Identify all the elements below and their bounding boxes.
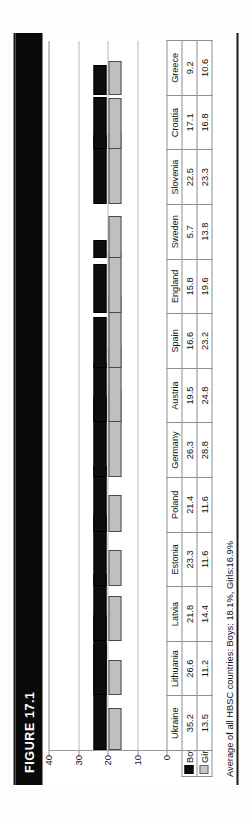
chart-area: 010203040 UkraineLithuaniaLatviaEstoniaP… [49,41,199,777]
y-axis-tick-mark [108,751,109,755]
table-row: Boys35.226.621.823.321.426.319.516.615.8… [182,41,197,777]
table-cell-value: 16.6 [182,314,197,369]
table-cell-value: 14.4 [197,587,212,642]
legend-label: Girls [200,751,210,764]
bar-boys [94,317,107,368]
bar-group [49,204,167,259]
legend-item-girls: Girls [197,751,212,777]
bar-girls [109,660,122,695]
bar-girls [109,550,122,586]
table-cell-value: 10.6 [197,41,212,96]
bar-group [49,586,167,641]
bar-girls [109,708,122,750]
table-header-country: Latvia [167,587,182,642]
table-cell-value: 15.8 [182,259,197,314]
bar-group [49,149,167,204]
bar-girls [109,216,122,259]
bar-group [49,40,167,95]
table-header-country: Germany [167,423,182,478]
figure-page: FIGURE 17.1 010203040 UkraineLithuaniaLa… [0,0,252,818]
table-header-country: England [167,259,182,314]
bar-group [49,313,167,368]
bar-boys [94,66,107,95]
bar-group [49,258,167,313]
bar-girls [109,596,122,640]
table-cell-value: 11.2 [197,641,212,696]
table-corner-cell [167,751,182,777]
table-row: Girls13.511.214.411.611.628.824.823.219.… [197,41,212,777]
data-table: UkraineLithuaniaLatviaEstoniaPolandGerma… [167,40,213,777]
table-cell-value: 9.2 [182,41,197,96]
table-header-country: Sweden [167,204,182,259]
table-header-country: Estonia [167,532,182,587]
table-cell-value: 13.8 [197,204,212,259]
y-axis-tick-mark [137,751,138,755]
table-cell-value: 26.6 [182,641,197,696]
figure-number-label: FIGURE 17.1 [22,691,36,773]
y-axis-tick-label: 20 [102,755,113,766]
figure-body: 010203040 UkraineLithuaniaLatviaEstoniaP… [43,33,239,785]
bar-group [49,477,167,532]
table-cell-value: 13.5 [197,696,212,751]
table-cell-value: 5.7 [182,204,197,259]
table-header-country: Spain [167,314,182,369]
bar-boys [94,264,107,313]
bar-group [49,532,167,587]
chart-footnote: Average of all HBSC countries: Boys: 18.… [225,41,235,777]
y-axis-tick-mark [49,751,50,755]
legend-label: Boys [185,751,195,764]
bar-group [49,695,167,750]
bar-group [49,368,167,423]
table-cell-value: 11.6 [197,532,212,587]
table-header-country: Slovenia [167,150,182,205]
bar-girls [109,495,122,531]
bar-boys [94,240,107,259]
table-cell-value: 23.3 [182,532,197,587]
table-cell-value: 21.4 [182,477,197,532]
bar-girls [109,61,122,94]
table-cell-value: 16.8 [197,95,212,150]
table-cell-value: 26.3 [182,423,197,478]
table-cell-value: 23.3 [197,150,212,205]
table-header-country: Ukraine [167,696,182,751]
rotated-figure-wrapper: FIGURE 17.1 010203040 UkraineLithuaniaLa… [0,0,252,818]
table-row-header: UkraineLithuaniaLatviaEstoniaPolandGerma… [167,41,182,777]
table-header-country: Poland [167,477,182,532]
table-header-country: Lithuania [167,641,182,696]
table-cell-value: 28.8 [197,423,212,478]
bar-girls [109,253,122,313]
bar-group [49,95,167,150]
legend-swatch-girls-icon [200,765,209,774]
y-axis-tick-label: 40 [43,755,54,766]
figure-panel: FIGURE 17.1 010203040 UkraineLithuaniaLa… [14,33,239,785]
table-cell-value: 19.6 [197,259,212,314]
bar-group [49,641,167,696]
y-axis-tick-label: 30 [73,755,84,766]
legend-swatch-boys-icon [185,765,194,774]
table-cell-value: 22.5 [182,150,197,205]
legend-item-boys: Boys [182,751,197,777]
y-axis-tick-label: 10 [132,755,143,766]
bar-boys [94,363,107,423]
y-axis: 010203040 [49,751,167,777]
table-cell-value: 23.2 [197,314,212,369]
bar-boys [94,97,107,149]
bar-girls [109,98,122,150]
table-cell-value: 21.8 [182,587,197,642]
bar-group [49,422,167,477]
table-cell-value: 24.8 [197,368,212,423]
table-header-country: Croatia [167,95,182,150]
table-header-country: Austria [167,368,182,423]
table-cell-value: 17.1 [182,95,197,150]
table-cell-value: 35.2 [182,696,197,751]
figure-number-tab: FIGURE 17.1 [16,33,43,785]
table-cell-value: 19.5 [182,368,197,423]
table-header-country: Greece [167,41,182,96]
y-axis-tick-mark [78,751,79,755]
table-cell-value: 11.6 [197,477,212,532]
plot-area [49,41,167,751]
